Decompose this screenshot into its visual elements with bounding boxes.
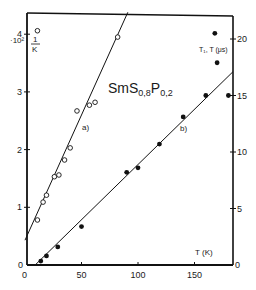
x-tick-label: 0	[22, 270, 27, 280]
filled-circle-point	[55, 245, 60, 250]
chart-svg: 05010015012345101520 SmS0,8P0,2 ·10² 1 K…	[0, 0, 256, 290]
right-axis-zero: 0	[235, 260, 240, 270]
open-circle-point	[115, 35, 120, 40]
filled-circle-point	[124, 170, 129, 175]
open-circle-point	[75, 109, 80, 114]
x-tick-label: 100	[130, 270, 145, 280]
y-right-tick-label: 20	[237, 34, 247, 44]
fit-line-a	[25, 12, 128, 240]
data-points	[35, 28, 231, 263]
left-axis-unit-denominator: K	[32, 45, 38, 54]
filled-circle-point	[44, 254, 49, 259]
filled-circle-point	[226, 93, 231, 98]
filled-circle-point	[136, 165, 141, 170]
y-right-tick-label: 15	[237, 91, 247, 101]
open-circle-point	[87, 103, 92, 108]
axis-ticks	[24, 34, 236, 265]
x-tick-label: 50	[76, 270, 86, 280]
open-circle-point	[68, 146, 73, 151]
left-axis-scale: ·10²	[10, 36, 25, 45]
right-axis-label: T₁, T (μs)	[199, 46, 228, 54]
y-right-tick-label: 5	[237, 204, 242, 214]
y-right-tick-label: 10	[237, 147, 247, 157]
filled-circle-point	[79, 224, 84, 229]
filled-circle-point	[203, 93, 208, 98]
open-circle-point	[57, 173, 62, 178]
fit-line-b	[35, 72, 233, 265]
filled-circle-point	[38, 259, 43, 264]
open-circle-point	[35, 28, 40, 33]
filled-circle-point	[215, 60, 220, 65]
open-circle-point	[41, 200, 46, 205]
x-axis-label: T (K)	[195, 248, 213, 257]
series-b-label: b)	[180, 124, 187, 133]
x-tick-label: 150	[187, 270, 202, 280]
top-border	[27, 13, 233, 16]
filled-circle-point	[157, 142, 162, 147]
open-circle-point	[35, 218, 40, 223]
y-left-tick-label: 2	[17, 145, 22, 155]
filled-circle-point	[212, 31, 217, 36]
open-circle-point	[52, 174, 57, 179]
filled-circle-point	[181, 115, 186, 120]
axis-tick-labels: 05010015012345101520	[17, 29, 247, 280]
chart-title: SmS0,8P0,2	[108, 80, 173, 98]
left-axis-unit-numerator: 1	[33, 35, 38, 44]
open-circle-point	[44, 193, 49, 198]
left-axis-zero: 0	[18, 260, 23, 270]
open-circle-point	[62, 158, 67, 163]
series-a-label: a)	[82, 123, 89, 132]
y-left-tick-label: 1	[17, 202, 22, 212]
open-circle-point	[93, 100, 98, 105]
y-left-tick-label: 3	[17, 87, 22, 97]
